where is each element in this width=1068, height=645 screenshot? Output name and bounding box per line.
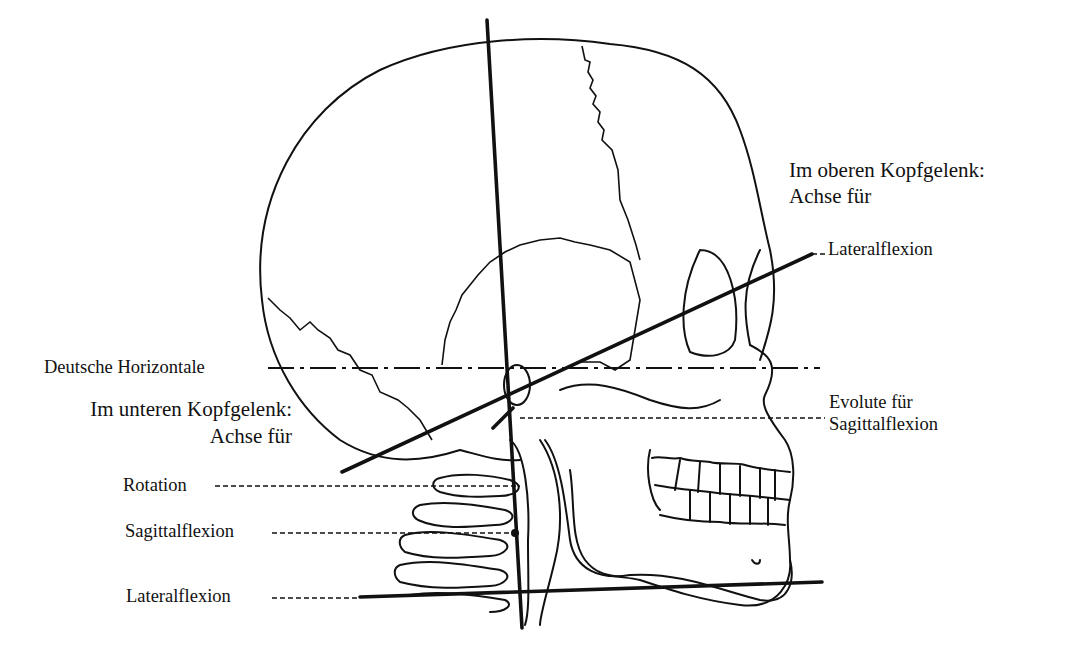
zygomatic-arch xyxy=(560,385,720,409)
lower-lateralflexion-line xyxy=(360,582,822,597)
mandible-ramus xyxy=(648,450,660,510)
lateralflexion-label: Lateralflexion xyxy=(126,586,231,607)
face-profile xyxy=(570,250,793,606)
upper-joint-subtitle: Achse für xyxy=(789,184,871,208)
squamous-suture xyxy=(442,238,640,370)
sagittal-pivot-dot xyxy=(511,529,519,537)
lower-joint-subtitle: Achse für xyxy=(22,424,292,448)
german-horizontal-label: Deutsche Horizontale xyxy=(44,357,205,378)
teeth xyxy=(652,457,790,525)
upper-lateralflexion-label: Lateralflexion xyxy=(828,239,933,260)
coronal-suture xyxy=(582,46,640,260)
mental-foramen xyxy=(752,560,760,564)
upper-lateralflexion-axis xyxy=(342,254,812,472)
upper-joint-title: Im oberen Kopfgelenk: xyxy=(789,158,985,182)
lower-joint-title: Im unteren Kopfgelenk: xyxy=(22,397,292,421)
cranium-outline xyxy=(260,39,774,360)
occiput-outline xyxy=(262,300,520,460)
rotation-label: Rotation xyxy=(123,475,187,496)
vertical-axis-line xyxy=(487,20,522,628)
sagittalflexion-label: Sagittalflexion xyxy=(125,521,234,542)
mandible-outline xyxy=(545,440,792,601)
evolute-label-line2: Sagittalflexion xyxy=(829,414,938,435)
evolute-label-line1: Evolute für xyxy=(829,392,913,413)
skull-diagram xyxy=(0,0,1068,645)
